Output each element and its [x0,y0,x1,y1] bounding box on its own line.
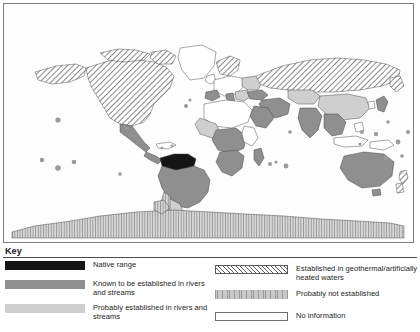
legend-item-known-established: Known to be established in rivers and st… [5,279,210,301]
figure-page: A distribution of the species is shown a… [0,0,420,332]
legend-column-right: Established in geothermal/artificially h… [215,260,420,327]
legend-item-probably-not-established: Probably not established [215,289,420,303]
legend-title: Key [5,246,22,256]
legend-divider [3,257,417,258]
map-panel: (b) [3,3,414,243]
legend-item-no-information: No information [215,311,420,325]
native-range-swatch [5,261,85,270]
world-distribution-map [4,4,413,242]
legend: Key Native range Known to be established… [3,246,417,330]
probably-not-established-swatch [215,290,288,299]
legend-label-no-information: No information [296,311,420,320]
region-tasmania [372,189,381,196]
legend-label-probably-not-established: Probably not established [296,289,420,298]
legend-item-probably-established: Probably established in rivers and strea… [5,303,210,325]
legend-item-native-range: Native range [5,260,210,271]
legend-label-native-range: Native range [93,260,210,269]
legend-label-geothermal: Established in geothermal/artificially h… [296,264,420,282]
legend-label-probably-established: Probably established in rivers and strea… [93,303,210,321]
geothermal-swatch [215,265,288,274]
region-korea [368,101,375,109]
no-information-swatch [215,312,288,321]
legend-column-left: Native range Known to be established in … [5,260,210,327]
known-established-swatch [5,280,85,289]
legend-label-known-established: Known to be established in rivers and st… [93,279,210,297]
legend-item-geothermal: Established in geothermal/artificially h… [215,264,420,286]
probably-established-swatch [5,304,85,313]
